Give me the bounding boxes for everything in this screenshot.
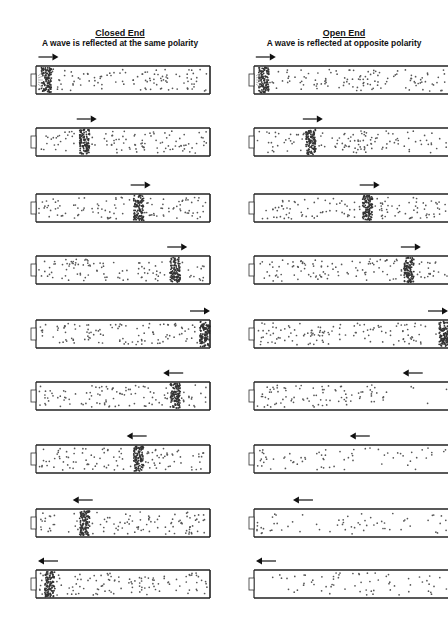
speaker-icon	[31, 390, 36, 402]
direction-arrow-left-icon	[256, 558, 276, 565]
air-particles	[39, 572, 208, 596]
closed-tube-frame-6	[31, 370, 210, 411]
speaker-icon	[31, 136, 36, 148]
compression-pulse	[170, 383, 182, 409]
open-tube-frame-2	[249, 116, 448, 157]
compression-pulse	[403, 257, 415, 284]
compression-pulse	[362, 195, 374, 221]
speaker-icon	[31, 202, 36, 214]
closed-tube-frame-1	[31, 54, 210, 95]
speaker-icon	[249, 328, 254, 340]
air-particles	[39, 384, 207, 407]
air-particles	[38, 196, 206, 219]
compression-pulse	[133, 446, 145, 472]
air-particles	[262, 197, 447, 220]
direction-arrow-right-icon	[190, 308, 210, 315]
direction-arrow-left-icon	[73, 497, 93, 504]
closed-tube-frame-7	[31, 433, 210, 474]
direction-arrow-right-icon	[77, 116, 97, 123]
air-particles	[41, 130, 208, 154]
air-particles	[40, 323, 198, 346]
speaker-icon	[249, 74, 254, 86]
speaker-icon	[249, 578, 254, 590]
direction-arrow-left-icon	[38, 558, 58, 565]
closed-tube-frame-2	[31, 116, 210, 157]
speaker-icon	[31, 453, 36, 465]
speaker-icon	[249, 264, 254, 276]
air-particles	[257, 130, 447, 153]
air-particles	[259, 258, 447, 282]
compression-pulse	[79, 510, 91, 536]
speaker-icon	[249, 202, 254, 214]
speaker-icon	[249, 136, 254, 148]
open-tube-frame-8	[249, 497, 448, 538]
air-particles	[269, 69, 445, 92]
air-particles	[257, 447, 447, 470]
direction-arrow-right-icon	[401, 244, 421, 251]
air-particles	[40, 511, 205, 535]
direction-arrow-left-icon	[163, 370, 183, 377]
direction-arrow-left-icon	[293, 497, 313, 504]
open-tube-frame-9	[249, 558, 448, 599]
open-tube-frame-1	[249, 54, 448, 95]
open-tube-frame-5	[249, 308, 448, 349]
closed-tube-frame-9	[31, 558, 210, 599]
direction-arrow-right-icon	[360, 182, 380, 189]
speaker-icon	[31, 328, 36, 340]
open-tube-frame-6	[249, 370, 448, 411]
open-tube-frame-7	[249, 433, 448, 474]
direction-arrow-right-icon	[38, 54, 58, 61]
direction-arrow-left-icon	[127, 433, 147, 440]
air-particles	[38, 68, 207, 91]
closed-tube-frame-5	[31, 308, 211, 349]
direction-arrow-left-icon	[350, 433, 370, 440]
closed-tube-frame-4	[31, 244, 210, 285]
direction-arrow-right-icon	[428, 308, 448, 315]
closed-tube-frame-3	[31, 182, 210, 223]
direction-arrow-right-icon	[256, 54, 276, 61]
air-particles	[258, 322, 437, 345]
speaker-icon	[31, 517, 36, 529]
air-particles	[256, 513, 447, 535]
compression-pulse	[169, 257, 181, 283]
direction-arrow-right-icon	[167, 244, 187, 251]
closed-tube-frame-8	[31, 497, 210, 538]
speaker-icon	[31, 264, 36, 276]
air-particles	[272, 572, 447, 596]
speaker-icon	[249, 390, 254, 402]
open-tube-frame-3	[249, 182, 448, 223]
direction-arrow-right-icon	[131, 182, 151, 189]
compression-pulse	[79, 129, 91, 155]
compression-pulse	[199, 321, 211, 348]
reflection-diagram	[0, 0, 448, 620]
air-particles	[39, 447, 205, 470]
speaker-icon	[31, 578, 36, 590]
speaker-icon	[31, 74, 36, 86]
compression-pulse	[305, 129, 317, 156]
speaker-icon	[249, 453, 254, 465]
compression-pulse	[133, 195, 145, 222]
compression-pulse	[438, 321, 448, 347]
air-particles	[257, 384, 448, 408]
speaker-icon	[249, 517, 254, 529]
open-tube-frame-4	[249, 244, 448, 285]
compression-pulse	[44, 571, 56, 598]
direction-arrow-right-icon	[303, 116, 323, 123]
direction-arrow-left-icon	[403, 370, 423, 377]
